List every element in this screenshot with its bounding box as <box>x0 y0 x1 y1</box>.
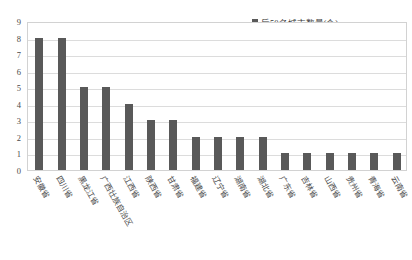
bar-slot <box>274 23 296 170</box>
x-axis-tick-label: 甘肃省 <box>165 175 184 200</box>
bar[interactable] <box>35 38 43 170</box>
bar-slot <box>95 23 117 170</box>
bars-layer <box>28 23 406 170</box>
bar-slot <box>363 23 385 170</box>
x-axis-tick-label: 广东省 <box>277 175 296 200</box>
x-axis-tick-label: 吉林省 <box>299 175 318 200</box>
x-axis-tick-label: 福建省 <box>188 175 207 200</box>
y-axis-tick-label: 4 <box>17 101 21 110</box>
x-axis-tick-label: 江西省 <box>121 175 140 200</box>
bar-slot <box>296 23 318 170</box>
x-axis: 安徽省四川省黑龙江省广西壮族自治区江西省陕西省甘肃省福建省辽宁省湖南省湖北省广东… <box>27 172 407 258</box>
y-axis-tick-label: 9 <box>17 18 21 27</box>
bar[interactable] <box>348 153 356 170</box>
bar[interactable] <box>236 137 244 170</box>
x-axis-tick: 云南省 <box>385 172 407 258</box>
y-axis-tick-label: 8 <box>17 34 21 43</box>
bar-slot <box>162 23 184 170</box>
bar[interactable] <box>214 137 222 170</box>
bar-slot <box>386 23 408 170</box>
plot-area <box>27 22 407 171</box>
x-axis-tick-label: 安徽省 <box>31 175 50 200</box>
bar[interactable] <box>326 153 334 170</box>
bar[interactable] <box>303 153 311 170</box>
x-axis-tick: 陕西省 <box>139 172 161 258</box>
bar-slot <box>341 23 363 170</box>
bar-slot <box>319 23 341 170</box>
x-axis-tick: 吉林省 <box>295 172 317 258</box>
x-axis-tick: 山西省 <box>318 172 340 258</box>
x-axis-tick: 青海省 <box>362 172 384 258</box>
x-axis-tick: 福建省 <box>183 172 205 258</box>
x-axis-tick-label: 辽宁省 <box>210 175 229 200</box>
bar[interactable] <box>281 153 289 170</box>
x-axis-tick-label: 云南省 <box>389 175 408 200</box>
x-axis-tick: 安徽省 <box>27 172 49 258</box>
y-axis-tick-label: 1 <box>17 150 21 159</box>
bar[interactable] <box>80 87 88 170</box>
bar[interactable] <box>370 153 378 170</box>
x-axis-tick: 湖北省 <box>251 172 273 258</box>
bar-slot <box>28 23 50 170</box>
bar-slot <box>207 23 229 170</box>
x-axis-tick: 贵州省 <box>340 172 362 258</box>
bar[interactable] <box>169 120 177 170</box>
bar-slot <box>73 23 95 170</box>
bar-slot <box>50 23 72 170</box>
bar-slot <box>252 23 274 170</box>
x-axis-tick-label: 湖南省 <box>232 175 251 200</box>
x-axis-tick-label: 贵州省 <box>344 175 363 200</box>
y-axis-tick-label: 0 <box>17 167 21 176</box>
x-axis-tick: 广西壮族自治区 <box>94 172 116 258</box>
x-axis-tick-label: 山西省 <box>322 175 341 200</box>
x-axis-tick: 广东省 <box>273 172 295 258</box>
bar-slot <box>117 23 139 170</box>
x-axis-tick: 湖南省 <box>228 172 250 258</box>
bar[interactable] <box>102 87 110 170</box>
y-axis-tick-label: 6 <box>17 67 21 76</box>
bar[interactable] <box>393 153 401 170</box>
x-axis-tick-label: 陕西省 <box>143 175 162 200</box>
bar[interactable] <box>147 120 155 170</box>
x-axis-tick-label: 青海省 <box>367 175 386 200</box>
x-axis-tick-label: 湖北省 <box>255 175 274 200</box>
x-axis-tick: 四川省 <box>49 172 71 258</box>
y-axis: 0123456789 <box>0 22 24 171</box>
bar[interactable] <box>58 38 66 170</box>
bar-slot <box>184 23 206 170</box>
y-axis-tick-label: 7 <box>17 51 21 60</box>
y-axis-tick-label: 5 <box>17 84 21 93</box>
x-axis-tick: 甘肃省 <box>161 172 183 258</box>
bar-slot <box>229 23 251 170</box>
bar[interactable] <box>125 104 133 170</box>
x-axis-tick: 江西省 <box>116 172 138 258</box>
bar-chart: 后50名城市数量(个) 0123456789 安徽省四川省黑龙江省广西壮族自治区… <box>0 0 412 260</box>
bar[interactable] <box>259 137 267 170</box>
bar[interactable] <box>192 137 200 170</box>
y-axis-tick-label: 3 <box>17 117 21 126</box>
x-axis-tick: 黑龙江省 <box>72 172 94 258</box>
x-axis-tick-label: 四川省 <box>54 175 73 200</box>
y-axis-tick-label: 2 <box>17 134 21 143</box>
x-axis-tick: 辽宁省 <box>206 172 228 258</box>
bar-slot <box>140 23 162 170</box>
